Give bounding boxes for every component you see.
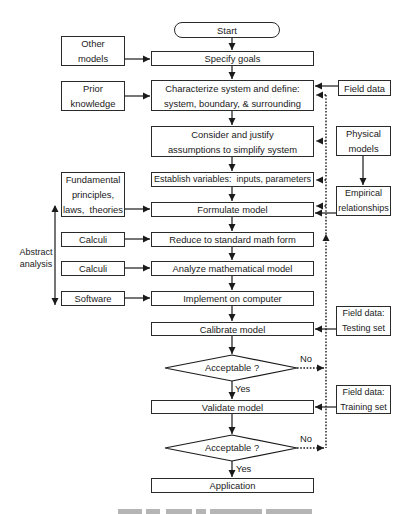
- start-terminal: Start: [174, 22, 280, 38]
- step-calibrate: Calibrate model: [151, 322, 314, 336]
- step-application: Application: [151, 478, 314, 493]
- input-label-line: Field data:: [342, 306, 384, 321]
- decision-1-yes: Yes: [235, 383, 250, 395]
- step-label: Reduce to standard math form: [169, 232, 296, 247]
- step-label: Specify goals: [205, 51, 261, 66]
- input-label-line: Empirical: [345, 186, 382, 201]
- step-label: Establish variables: inputs, parameters: [154, 172, 311, 187]
- decision-2-no: No: [300, 433, 312, 445]
- input-label-line: Other: [81, 36, 104, 51]
- step-specify-goals: Specify goals: [151, 51, 314, 66]
- step-label: Implement on computer: [183, 291, 281, 306]
- figure-caption-fragment: [110, 505, 350, 514]
- step-label-line: system, boundary, & surrounding: [164, 96, 301, 111]
- step-label-line: assumptions to simplify system: [168, 142, 297, 157]
- input-label-line: models: [78, 51, 108, 66]
- input-field-data-training: Field data: Training set: [336, 385, 391, 414]
- step-label: Calibrate model: [200, 322, 266, 337]
- input-label-line: Testing set: [342, 321, 385, 336]
- abstract-analysis-line: analysis: [18, 258, 54, 270]
- step-label-line: Consider and justify: [191, 127, 273, 142]
- input-label-line: knowledge: [71, 96, 116, 111]
- step-validate: Validate model: [151, 400, 314, 414]
- input-label-line: Field data:: [342, 385, 384, 400]
- input-physical-models: Physical models: [336, 126, 391, 156]
- step-label: Analyze mathematical model: [173, 261, 293, 276]
- step-characterize: Characterize system and define: system, …: [151, 80, 314, 111]
- input-label-line: Training set: [340, 400, 387, 415]
- input-calculi-1: Calculi: [61, 232, 125, 247]
- input-label: Calculi: [79, 232, 107, 247]
- step-label-line: Characterize system and define:: [165, 81, 299, 96]
- step-label: Application: [210, 478, 256, 493]
- decision-1-label: Acceptable ?: [166, 362, 298, 374]
- input-software: Software: [61, 291, 125, 306]
- step-establish-variables: Establish variables: inputs, parameters: [151, 172, 314, 187]
- input-label: Calculi: [79, 261, 107, 276]
- input-calculi-2: Calculi: [61, 261, 125, 276]
- step-formulate: Formulate model: [151, 202, 314, 217]
- input-label-line: relationships: [338, 201, 389, 216]
- input-field-data-testing: Field data: Testing set: [336, 306, 391, 336]
- step-label: Formulate model: [197, 202, 267, 217]
- input-label-line: models: [348, 141, 378, 156]
- input-label-line: principles,: [72, 187, 114, 202]
- connector-lines: [0, 0, 414, 514]
- input-label: Field data: [344, 81, 385, 96]
- input-label-line: laws, theories: [63, 202, 123, 217]
- abstract-analysis-label: Abstract analysis: [18, 246, 54, 270]
- input-other-models: Other models: [61, 36, 125, 66]
- input-label-line: Prior: [83, 81, 103, 96]
- step-reduce: Reduce to standard math form: [151, 232, 314, 247]
- decision-1-no: No: [300, 353, 312, 365]
- step-label: Validate model: [202, 400, 263, 415]
- start-label: Start: [217, 23, 237, 38]
- decision-2-label: Acceptable ?: [166, 442, 298, 454]
- input-label-line: Fundamental: [66, 172, 121, 187]
- decision-2-yes: Yes: [236, 463, 251, 475]
- input-prior-knowledge: Prior knowledge: [61, 81, 125, 111]
- step-analyze: Analyze mathematical model: [151, 261, 314, 276]
- input-empirical-relationships: Empirical relationships: [336, 186, 391, 216]
- input-label: Software: [75, 291, 112, 306]
- input-label-line: Physical: [346, 126, 381, 141]
- input-field-data: Field data: [338, 80, 391, 96]
- abstract-analysis-line: Abstract: [18, 246, 54, 258]
- step-implement: Implement on computer: [151, 291, 314, 306]
- input-fundamental-principles: Fundamental principles, laws, theories: [61, 172, 125, 217]
- step-consider: Consider and justify assumptions to simp…: [151, 126, 314, 157]
